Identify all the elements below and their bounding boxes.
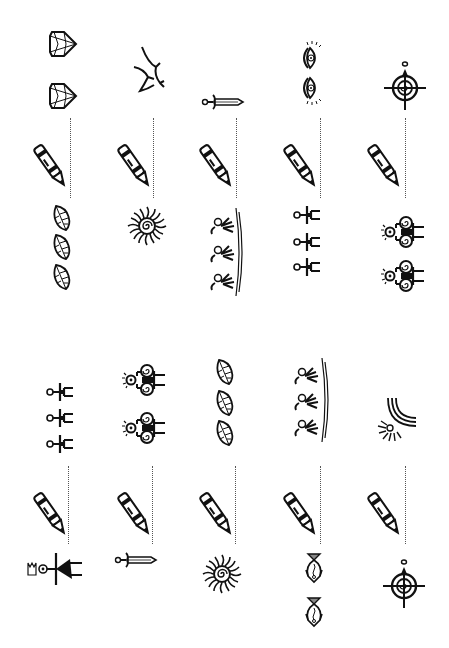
- target-icon: [404, 586, 449, 648]
